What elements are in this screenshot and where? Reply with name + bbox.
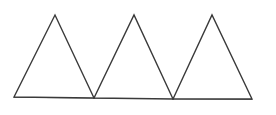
triangles-diagram — [0, 0, 276, 115]
triangle-3 — [173, 15, 252, 99]
triangle-1 — [14, 15, 94, 98]
triangle-2 — [94, 15, 173, 99]
